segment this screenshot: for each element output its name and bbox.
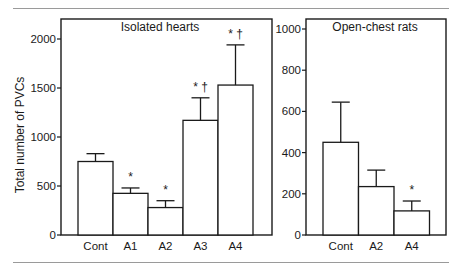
y-tick-label: 0 bbox=[50, 229, 56, 241]
x-tick-label: Cont bbox=[83, 240, 108, 252]
x-tick-label: A3 bbox=[193, 240, 207, 252]
x-tick-label: Cont bbox=[329, 240, 354, 252]
bar-a4 bbox=[218, 85, 253, 235]
y-tick-label: 200 bbox=[282, 188, 301, 200]
y-tick-label: 0 bbox=[295, 229, 301, 241]
bar-cont bbox=[78, 162, 113, 236]
significance-marker: * bbox=[128, 170, 133, 184]
significance-marker: * bbox=[409, 183, 414, 197]
bar-a1 bbox=[113, 193, 148, 235]
panel-title: Open-chest rats bbox=[332, 20, 417, 34]
bar-cont bbox=[323, 142, 359, 235]
y-tick-label: 1000 bbox=[30, 131, 56, 143]
bar-chart-figure: Isolated hearts0500100015002000Total num… bbox=[0, 0, 461, 270]
y-axis-label: Total number of PVCs bbox=[13, 77, 27, 194]
bar-a4 bbox=[394, 211, 430, 235]
y-tick-label: 500 bbox=[37, 180, 56, 192]
bar-a2 bbox=[359, 187, 395, 235]
x-tick-label: A4 bbox=[228, 240, 243, 252]
significance-marker: * † bbox=[228, 27, 243, 41]
significance-marker: * † bbox=[193, 80, 208, 94]
y-tick-label: 600 bbox=[282, 105, 301, 117]
bar-a2 bbox=[148, 208, 183, 235]
y-tick-label: 2000 bbox=[30, 33, 56, 45]
x-tick-label: A2 bbox=[158, 240, 172, 252]
bar-a3 bbox=[183, 120, 218, 235]
y-tick-label: 1000 bbox=[275, 23, 301, 35]
y-tick-label: 1500 bbox=[30, 82, 56, 94]
panel-title: Isolated hearts bbox=[121, 20, 200, 34]
y-tick-label: 400 bbox=[282, 147, 301, 159]
x-tick-label: A4 bbox=[405, 240, 420, 252]
significance-marker: * bbox=[163, 183, 168, 197]
y-tick-label: 800 bbox=[282, 64, 301, 76]
x-tick-label: A1 bbox=[123, 240, 137, 252]
x-tick-label: A2 bbox=[369, 240, 383, 252]
